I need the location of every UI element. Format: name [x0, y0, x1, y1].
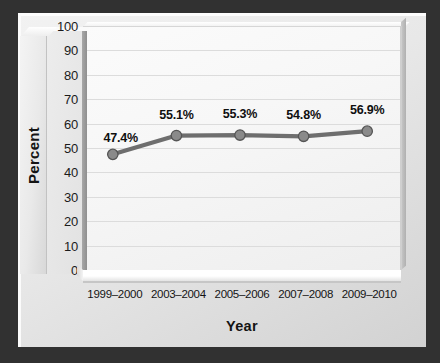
- x-axis-category-label: 2009–2010: [342, 288, 397, 300]
- x-axis-category-label: 2003–2004: [151, 288, 206, 300]
- x-axis-category-label: 2007–2008: [278, 288, 333, 300]
- data-value-label: 56.9%: [350, 103, 384, 117]
- y-axis-tick-label: 70: [64, 93, 78, 106]
- y-axis-tick-label: 50: [64, 142, 78, 155]
- y-axis-tick-label: 40: [64, 166, 78, 179]
- data-value-label: 54.8%: [286, 108, 320, 122]
- x-axis-category-label: 1999–2000: [87, 288, 142, 300]
- floor-shadow-line: [83, 281, 401, 283]
- y-axis-tick-label: 100: [57, 20, 78, 33]
- data-point-marker: [235, 130, 245, 140]
- y-axis-tick-label: 90: [64, 44, 78, 57]
- y-axis-tick-label: 60: [64, 117, 78, 130]
- y-axis-tick-label: 30: [64, 190, 78, 203]
- plot-right-edge: [401, 18, 406, 270]
- y-axis-tick-label: 80: [64, 68, 78, 81]
- data-point-marker: [108, 149, 118, 159]
- data-point-marker: [171, 130, 181, 140]
- data-point-marker: [362, 126, 372, 136]
- x-axis-category-label: 2005–2006: [215, 288, 270, 300]
- line-series-svg: [83, 26, 401, 270]
- data-value-label: 47.4%: [104, 131, 138, 145]
- data-value-label: 55.3%: [223, 107, 257, 121]
- y-axis-tick-strip: 1009080706050403020100: [44, 31, 82, 274]
- y-axis-tick-label: 10: [64, 239, 78, 252]
- chart-screenshot: 1009080706050403020100 Percent 47.4%55.1…: [0, 0, 440, 363]
- data-point-marker: [298, 131, 308, 141]
- x-axis-floor: [83, 270, 401, 281]
- y-axis-tick-label: 20: [64, 215, 78, 228]
- data-value-label: 55.1%: [159, 108, 193, 122]
- y-axis-title: Percent: [20, 36, 46, 274]
- base-top-bevel: [18, 13, 426, 16]
- x-axis-title: Year: [83, 318, 401, 334]
